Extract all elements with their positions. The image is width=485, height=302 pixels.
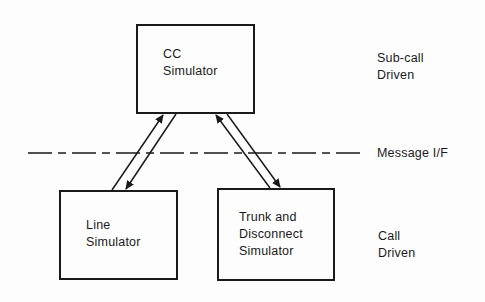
sub-call-driven-label: Sub-call Driven <box>377 50 424 84</box>
trunk-disconnect-simulator-label: Trunk and Disconnect Simulator <box>239 209 303 260</box>
line-simulator-label: Line Simulator <box>86 217 141 251</box>
cc-simulator-box: CC Simulator <box>136 24 255 114</box>
call-driven-label: Call Driven <box>378 228 415 262</box>
arrow-cc-to-trunk <box>227 114 280 187</box>
cc-simulator-label: CC Simulator <box>163 46 218 80</box>
line-simulator-box: Line Simulator <box>59 190 178 280</box>
arrow-cc-to-line <box>126 114 176 189</box>
arrow-trunk-to-cc <box>216 115 270 188</box>
trunk-disconnect-simulator-box: Trunk and Disconnect Simulator <box>217 188 335 281</box>
diagram-canvas: CC Simulator Line Simulator Trunk and Di… <box>0 0 485 302</box>
message-interface-label: Message I/F <box>377 145 448 162</box>
